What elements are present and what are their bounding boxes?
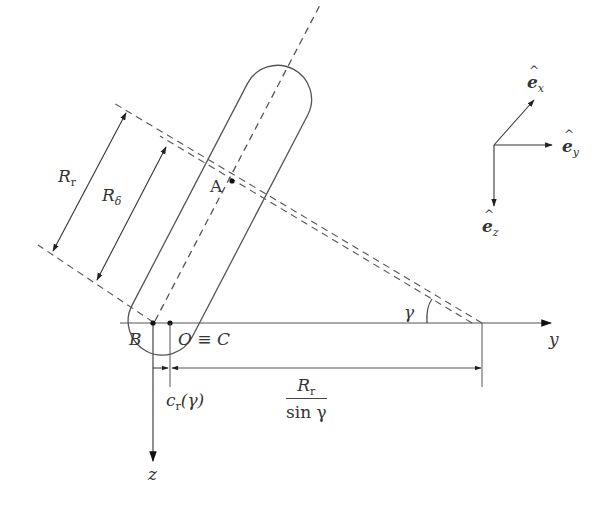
label-O-equiv-C: O ≡ C	[178, 331, 230, 348]
point-B	[150, 320, 155, 325]
label-e-x: ex	[527, 74, 544, 91]
label-z-axis: z	[148, 466, 157, 483]
tire-centerline	[155, 5, 320, 321]
label-y-axis: y	[549, 331, 559, 348]
label-e-y: ey	[562, 138, 579, 155]
rdelta-reference-line	[160, 136, 472, 323]
label-e-z: ez	[482, 218, 499, 235]
label-A: A	[210, 178, 222, 195]
ex-arrow	[494, 100, 534, 145]
label-c-r-gamma: cr(γ)	[166, 392, 204, 409]
label-R-r-over-sin-gamma: Rr sin γ	[286, 375, 327, 422]
diagram-canvas	[0, 0, 610, 506]
unit-vector-triad	[494, 100, 552, 206]
label-R-r: Rr	[58, 168, 76, 185]
label-gamma: γ	[404, 304, 414, 321]
label-R-delta: Rδ	[102, 187, 121, 204]
lower-reference-line	[38, 245, 153, 322]
point-A	[229, 178, 234, 183]
label-B: B	[129, 331, 142, 348]
gamma-angle-arc	[427, 299, 432, 323]
